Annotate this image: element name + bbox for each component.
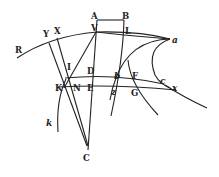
- label-I: I: [67, 62, 71, 72]
- label-X: X: [54, 26, 61, 36]
- label-C: C: [83, 153, 90, 163]
- label-E: E: [87, 83, 94, 93]
- label-F: F: [132, 71, 138, 81]
- label-V: V: [90, 23, 98, 33]
- label-A: A: [90, 11, 98, 21]
- label-k: k: [46, 118, 52, 128]
- label-L: L: [125, 26, 131, 36]
- geometric-diagram: A B V L R Y X a I D b F c x K N E z G k …: [0, 0, 219, 177]
- label-K: K: [55, 83, 63, 93]
- label-Y: Y: [42, 29, 50, 39]
- line-V-to-K: [64, 32, 96, 88]
- label-a: a: [172, 35, 178, 45]
- label-R: R: [15, 45, 23, 55]
- label-D: D: [87, 66, 95, 76]
- label-b: b: [114, 71, 120, 81]
- label-G: G: [131, 88, 138, 98]
- label-z: z: [110, 87, 117, 97]
- label-x: x: [171, 83, 178, 93]
- label-B: B: [122, 11, 129, 21]
- label-N: N: [73, 83, 81, 93]
- label-c: c: [160, 76, 166, 86]
